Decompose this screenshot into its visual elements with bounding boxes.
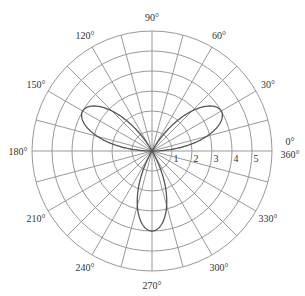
- polar-chart: 0°360°30°60°90°120°150°180°210°240°270°3…: [0, 0, 305, 296]
- radial-labels: 12345: [174, 153, 259, 164]
- grid-spoke: [67, 151, 152, 236]
- grid-spoke: [67, 66, 152, 151]
- angle-label-330: 330°: [259, 213, 278, 224]
- radial-label-1: 1: [174, 153, 179, 164]
- grid-spoke: [152, 151, 256, 211]
- angle-label-270: 270°: [143, 280, 162, 291]
- grid-spoke: [152, 151, 212, 255]
- angle-label-0: 0°: [286, 136, 295, 147]
- angle-label-150: 150°: [26, 79, 45, 90]
- angle-label-60: 60°: [212, 30, 226, 41]
- grid-spoke: [152, 47, 212, 151]
- angle-label-300: 300°: [210, 262, 229, 273]
- radial-label-5: 5: [254, 153, 259, 164]
- grid-spoke: [48, 151, 152, 211]
- radial-label-4: 4: [234, 153, 239, 164]
- radial-label-3: 3: [214, 153, 219, 164]
- grid-spoke: [92, 151, 152, 255]
- grid-spoke: [152, 66, 237, 151]
- angle-label-30: 30°: [261, 79, 275, 90]
- radial-label-2: 2: [194, 153, 199, 164]
- angle-label-120: 120°: [76, 30, 95, 41]
- grid-spoke: [92, 47, 152, 151]
- angle-label-210: 210°: [26, 213, 45, 224]
- grid-spoke: [152, 91, 256, 151]
- angle-label-360: 360°: [281, 149, 300, 160]
- angle-label-90: 90°: [145, 12, 159, 23]
- angle-label-240: 240°: [76, 262, 95, 273]
- angle-label-180: 180°: [9, 146, 28, 157]
- grid-spoke: [48, 91, 152, 151]
